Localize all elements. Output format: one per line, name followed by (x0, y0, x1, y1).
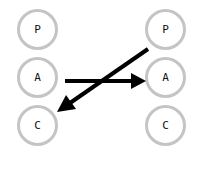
left-caption: ''What time is it?'' (9, 154, 76, 182)
arrow-adult-to-adult (65, 73, 146, 89)
right-caption: ''Time you weren't here.'' (130, 154, 211, 182)
transactional-analysis-diagram: P A C P A C ''What time is it?'' ''Time … (0, 0, 211, 182)
